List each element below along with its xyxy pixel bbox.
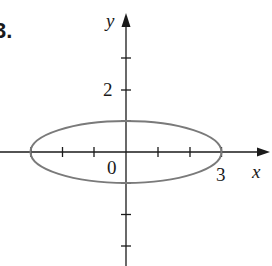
y-axis — [121, 13, 131, 266]
x-axis-label: x — [252, 162, 260, 181]
origin-label: 0 — [107, 158, 117, 177]
x-axis — [0, 147, 270, 157]
x-axis-arrow-icon — [257, 148, 270, 157]
y-axis-label: y — [106, 11, 114, 30]
x-tick-label-3: 3 — [216, 165, 226, 184]
ellipse-plot — [0, 0, 272, 266]
y-axis-arrow-icon — [122, 13, 131, 27]
problem-number: 3. — [0, 20, 12, 42]
y-tick-label-2: 2 — [103, 80, 113, 99]
